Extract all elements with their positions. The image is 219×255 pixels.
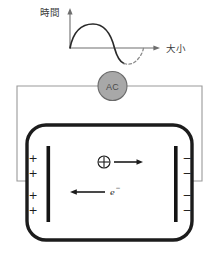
minus-sign: − <box>182 204 191 217</box>
electron-charge-superscript: − <box>116 184 121 191</box>
waveform-plot: 時間 大小 <box>40 7 186 64</box>
minus-sign: − <box>182 152 191 165</box>
chamber-wall <box>27 125 192 240</box>
horizontal-axis-arrowhead <box>153 45 160 50</box>
ac-source[interactable]: AC <box>98 72 127 101</box>
horizontal-axis-label: 大小 <box>166 43 186 54</box>
vertical-axis-arrowhead <box>67 8 72 15</box>
minus-sign: − <box>182 167 191 180</box>
waveform-dashed-segment <box>124 48 144 64</box>
vertical-axis-label: 時間 <box>40 7 60 18</box>
plus-sign: + <box>28 189 37 202</box>
waveform-solid-segment <box>70 24 124 64</box>
ac-source-label: AC <box>106 82 119 92</box>
right-electrode <box>174 146 178 222</box>
electrophoresis-chamber: + + + + − − − − <box>27 125 192 240</box>
plus-sign: + <box>28 152 37 165</box>
left-electrode <box>47 146 51 222</box>
plus-sign: + <box>28 204 37 217</box>
minus-sign: − <box>182 189 191 202</box>
electron-label: e <box>110 188 115 197</box>
plus-sign: + <box>28 167 37 180</box>
ac-electrophoresis-diagram: 時間 大小 AC + + + + <box>0 0 219 255</box>
diagram-canvas: 時間 大小 AC + + + + <box>0 0 219 255</box>
